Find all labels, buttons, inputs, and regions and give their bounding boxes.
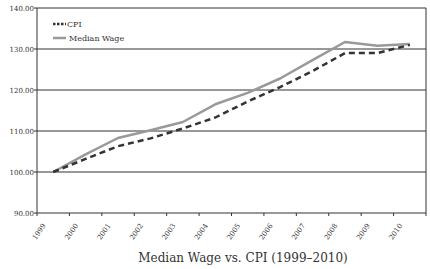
x-tick-label: 2010 bbox=[388, 222, 405, 241]
x-tick-label: 1999 bbox=[31, 222, 48, 241]
x-axis-ticks: 1999200020012002200320042005200620072008… bbox=[31, 213, 426, 241]
y-tick-label: 130.00 bbox=[10, 46, 35, 54]
x-tick-label: 2007 bbox=[290, 222, 307, 241]
x-tick-label: 2000 bbox=[63, 222, 80, 241]
y-axis-ticks: 90.00100.00110.00120.00130.00140.00 bbox=[10, 5, 35, 218]
x-tick-label: 2002 bbox=[128, 222, 145, 241]
y-tick-label: 100.00 bbox=[10, 169, 35, 177]
y-tick-label: 90.00 bbox=[14, 210, 34, 218]
x-tick-label: 2005 bbox=[225, 222, 242, 241]
cpi-line bbox=[53, 45, 410, 172]
legend-median-wage-label: Median Wage bbox=[69, 34, 124, 43]
x-tick-label: 2001 bbox=[96, 222, 113, 241]
line-chart: 90.00100.00110.00120.00130.00140.00 1999… bbox=[0, 0, 430, 269]
y-tick-label: 120.00 bbox=[10, 87, 35, 95]
y-tick-label: 110.00 bbox=[10, 128, 35, 136]
y-tick-label: 140.00 bbox=[10, 5, 35, 13]
x-tick-label: 2004 bbox=[193, 222, 210, 242]
legend-cpi-label: CPI bbox=[67, 20, 82, 29]
median-wage-line bbox=[53, 42, 410, 172]
x-tick-label: 2008 bbox=[323, 222, 340, 241]
x-tick-label: 2003 bbox=[161, 222, 178, 241]
x-tick-label: 2009 bbox=[355, 222, 372, 241]
x-tick-label: 2006 bbox=[258, 222, 275, 242]
legend: CPI Median Wage bbox=[53, 20, 124, 43]
chart-title: Median Wage vs. CPI (1999–2010) bbox=[138, 251, 347, 265]
series-lines bbox=[53, 42, 410, 172]
